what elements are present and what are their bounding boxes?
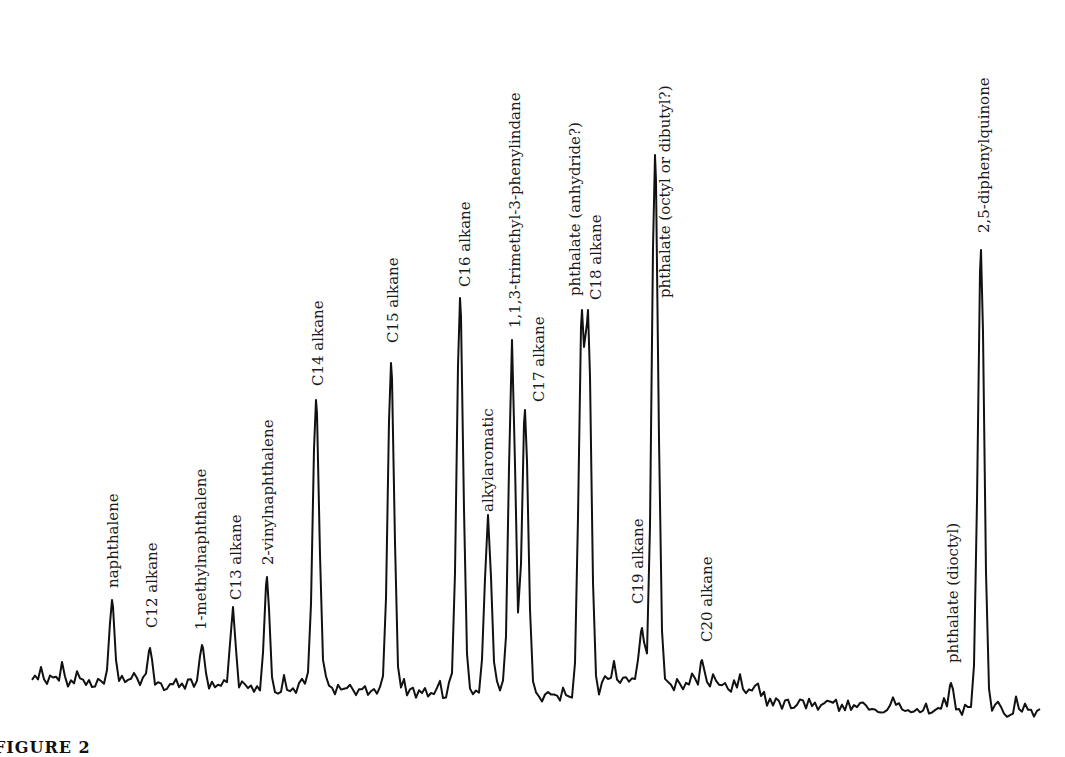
peak-label: C12 alkane [143, 542, 161, 628]
peak-label: 1-methylnaphthalene [192, 468, 210, 630]
peak-label: 2,5-diphenylquinone [975, 77, 993, 233]
peak-label: C19 alkane [629, 518, 647, 604]
peak-label: C17 alkane [530, 316, 548, 402]
figure-caption: FIGURE 2 [0, 738, 91, 757]
peak-label: 1,1,3-trimethyl-3-phenylindane [506, 92, 524, 328]
peak-label: C20 alkane [698, 556, 716, 642]
peak-label: C13 alkane [227, 514, 245, 600]
peak-label: 2-vinylnaphthalene [259, 419, 277, 565]
peak-label: phthalate (octyl or dibutyl?) [656, 86, 674, 298]
peak-label: alkylaromatic [479, 408, 497, 512]
peak-label: C14 alkane [309, 300, 327, 386]
chromatogram-trace [32, 155, 1040, 717]
peak-label: C16 alkane [456, 201, 474, 287]
peak-label: phthalate (anhydride?) [566, 122, 584, 296]
peak-label: C15 alkane [384, 257, 402, 343]
peak-labels: naphthaleneC12 alkane1-methylnaphthalene… [104, 77, 993, 663]
peak-label: C18 alkane [587, 214, 605, 300]
peak-label: naphthalene [104, 493, 122, 588]
peak-label: phthalate (dioctyl) [944, 523, 962, 663]
